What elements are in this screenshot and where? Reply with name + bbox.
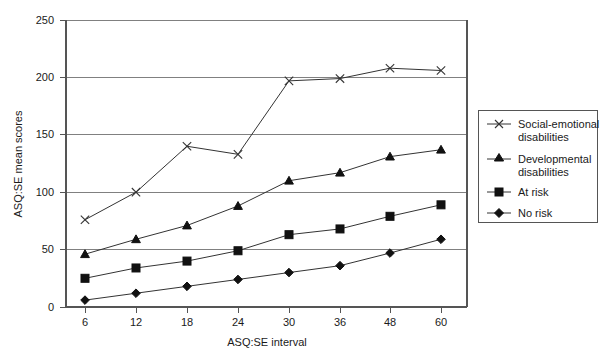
y-tick-label-200: 200 (36, 71, 54, 83)
square-marker (336, 225, 344, 233)
legend-label-4-line1: No risk (518, 207, 553, 219)
x-tick-label-6: 6 (82, 316, 88, 328)
chart-figure: 250 200 150 100 50 0 6 12 18 24 30 36 48 (0, 0, 601, 351)
legend-item-at-risk[interactable]: At risk (487, 186, 549, 198)
x-tick-label-18: 18 (181, 316, 193, 328)
legend-label-2-line2: disabilities (518, 166, 569, 178)
square-marker (234, 247, 242, 255)
legend-label-1-line2: disabilities (518, 131, 569, 143)
y-tick-label-150: 150 (36, 128, 54, 140)
square-marker (183, 257, 191, 265)
legend: Social-emotional disabilities Developmen… (478, 110, 599, 222)
legend-label-2-line1: Developmental (518, 153, 591, 165)
y-axis-title: ASQ:SE mean scores (12, 110, 24, 217)
square-marker (132, 264, 140, 272)
x-tick-label-12: 12 (130, 316, 142, 328)
square-marker (437, 201, 445, 209)
legend-label-3-line1: At risk (518, 186, 549, 198)
x-axis-title: ASQ:SE interval (227, 336, 306, 348)
x-tick-label-30: 30 (283, 316, 295, 328)
x-tick-label-60: 60 (435, 316, 447, 328)
y-tick-label-250: 250 (36, 14, 54, 26)
square-marker-icon (495, 188, 503, 196)
x-tick-label-48: 48 (384, 316, 396, 328)
x-tick-label-24: 24 (232, 316, 244, 328)
square-marker (386, 212, 394, 220)
legend-label-1-line1: Social-emotional (518, 118, 599, 130)
y-tick-label-100: 100 (36, 186, 54, 198)
square-marker (285, 231, 293, 239)
y-tick-label-50: 50 (42, 243, 54, 255)
y-tick-label-0: 0 (48, 301, 54, 313)
square-marker (81, 274, 89, 282)
line-chart-svg: 250 200 150 100 50 0 6 12 18 24 30 36 48 (0, 0, 601, 351)
x-tick-label-36: 36 (334, 316, 346, 328)
